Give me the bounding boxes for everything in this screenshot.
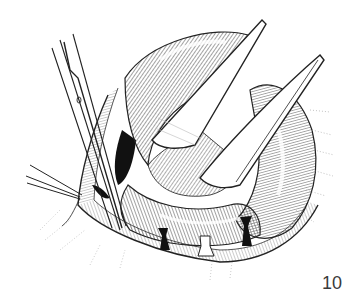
suture-needle <box>26 165 82 226</box>
figure-canvas: 10 <box>0 0 356 305</box>
surgical-illustration <box>0 0 356 305</box>
bowel-loops <box>121 32 316 246</box>
figure-number: 10 <box>322 273 342 294</box>
